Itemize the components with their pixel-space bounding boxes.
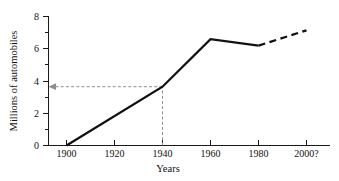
x-tick-label-2000: 2000? [294, 148, 319, 159]
x-tick-label-1940: 1940 [153, 148, 173, 159]
reading-guide-annotation [49, 83, 163, 145]
guide-arrowhead-icon [49, 83, 57, 90]
y-tick-label-0: 0 [34, 140, 39, 151]
x-tick-label-1920: 1920 [105, 148, 125, 159]
x-axis-ticks [67, 140, 307, 146]
y-tick-label-8: 8 [34, 11, 39, 22]
series-line-projected [259, 30, 307, 45]
y-tick-label-4: 4 [34, 76, 39, 87]
x-tick-label-1980: 1980 [249, 148, 269, 159]
y-axis-title: Millions of automobiles [8, 31, 19, 132]
chart-figure: 0 2 4 6 8 1900 1920 1940 1960 1980 2000?… [0, 0, 339, 181]
x-tick-label-1900: 1900 [57, 148, 77, 159]
x-axis-title: Years [156, 163, 179, 174]
y-axis-major-ticks [43, 17, 49, 146]
line-chart: 0 2 4 6 8 1900 1920 1940 1960 1980 2000?… [0, 0, 339, 181]
y-tick-label-6: 6 [34, 43, 39, 54]
x-tick-label-1960: 1960 [201, 148, 221, 159]
y-tick-label-2: 2 [34, 108, 39, 119]
